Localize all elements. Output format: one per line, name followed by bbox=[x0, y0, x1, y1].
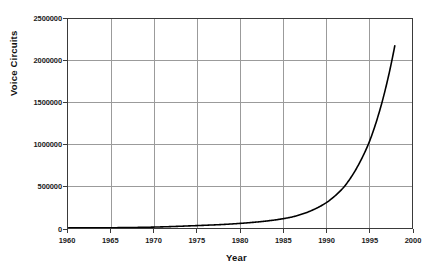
y-axis-title: Voice Circuits bbox=[8, 82, 19, 96]
x-tick-label: 2000 bbox=[393, 236, 433, 245]
x-tick-label: 1960 bbox=[47, 236, 87, 245]
x-tick-label: 1980 bbox=[220, 236, 260, 245]
x-axis-tick-labels: 196019651970197519801985199019952000 bbox=[0, 0, 440, 273]
x-tick-label: 1995 bbox=[350, 236, 390, 245]
x-tick-label: 1990 bbox=[307, 236, 347, 245]
x-axis-title-wrap: Year bbox=[0, 252, 440, 263]
x-axis-title: Year bbox=[226, 252, 247, 263]
chart-container: 05000001000000150000020000002500000 1960… bbox=[0, 0, 440, 273]
x-tick-label: 1975 bbox=[177, 236, 217, 245]
x-tick-label: 1970 bbox=[134, 236, 174, 245]
x-tick-label: 1985 bbox=[263, 236, 303, 245]
x-tick-label: 1965 bbox=[90, 236, 130, 245]
